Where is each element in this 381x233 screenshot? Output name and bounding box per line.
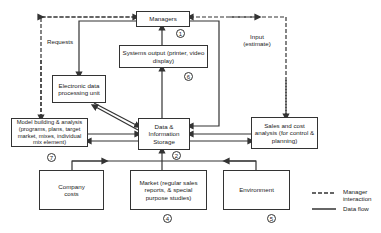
sales-cost-label: Sales and cost analysis (for control & p… [254,122,315,144]
systems-output-box: Systems output (printer, video display) [119,45,208,68]
number-badge-4: 4 [163,214,172,223]
market-label: Market (regular sales reports, & special… [133,179,204,201]
input-estimate-label: Input (estimate) [242,33,272,47]
market-box: Market (regular sales reports, & special… [130,170,207,210]
environment-label: Environment [239,186,274,193]
edp-unit-box: Electronic data processing unit [52,75,106,103]
number-badge-2: 2 [172,151,181,160]
environment-box: Environment [223,170,290,210]
company-costs-label: Company costs [57,183,87,197]
data-storage-box: Data & Information Storage [138,118,190,150]
number-badge-5: 5 [267,214,276,223]
model-building-label: Model building & analysis (programs, pla… [14,119,85,145]
requests-label: Requests [47,38,73,45]
legend-manager-interaction: Manager interaction [343,189,379,203]
number-badge-6: 6 [184,72,193,81]
edp-unit-label: Electronic data processing unit [55,82,103,96]
company-costs-box: Company costs [39,170,104,210]
number-badge-7: 7 [47,153,56,162]
model-building-box: Model building & analysis (programs, pla… [11,118,88,147]
data-storage-label: Data & Information Storage [141,123,187,145]
legend-data-flow: Data flow [343,206,369,213]
managers-box: Managers [136,11,190,27]
sales-cost-box: Sales and cost analysis (for control & p… [251,117,318,149]
number-badge-1: 1 [176,29,185,38]
managers-label: Managers [149,15,177,22]
systems-output-label: Systems output (printer, video display) [122,49,205,63]
